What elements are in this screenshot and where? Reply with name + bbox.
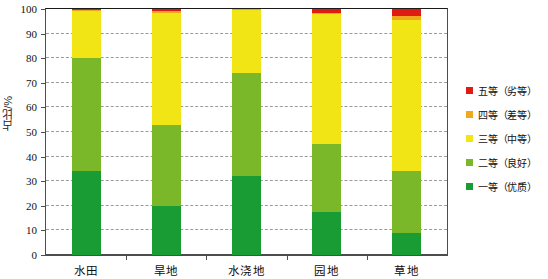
bar-segment[interactable] [392,20,421,171]
bar-stack[interactable] [312,9,341,255]
legend-label: 五等（劣等） [478,83,537,98]
bar-segment[interactable] [72,58,101,171]
bar-segment[interactable] [392,233,421,255]
bar-segment[interactable] [152,13,181,125]
legend-swatch-icon [466,87,473,94]
bar-segment[interactable] [392,9,421,16]
x-axis-label: 水浇地 [228,262,266,278]
legend-label: 四等（差等） [478,107,537,122]
legend-item[interactable]: 四等（差等） [466,102,548,126]
legend-label: 二等（良好） [478,155,537,170]
y-tick-label-60: 60 [26,101,37,113]
legend-item[interactable]: 五等（劣等） [466,78,548,102]
bar-segment[interactable] [72,11,101,58]
bar-segment[interactable] [72,171,101,255]
bar-segment[interactable] [312,144,341,212]
legend-swatch-icon [466,183,473,190]
x-axis-label: 园地 [314,262,339,278]
legend-swatch-icon [466,111,473,118]
plot-area: 0102030405060708090100 水田旱地水浇地园地草地 [45,8,448,256]
bar-segment[interactable] [152,206,181,255]
bar-group[interactable]: 园地 [312,9,341,255]
bar-group[interactable]: 草地 [392,9,421,255]
y-tick-label-50: 50 [26,126,37,138]
x-axis-label: 水田 [74,262,99,278]
bar-segment[interactable] [232,176,261,255]
bar-segment[interactable] [312,14,341,144]
bar-segment[interactable] [232,9,261,10]
bar-stack[interactable] [72,9,101,255]
stacked-bar-chart: 占比/% 0102030405060708090100 水田旱地水浇地园地草地 … [0,0,548,279]
y-tick-label-10: 10 [26,224,37,236]
y-tick-label-20: 20 [26,200,37,212]
x-tick [206,255,207,260]
legend-item[interactable]: 二等（良好） [466,150,548,174]
bar-stack[interactable] [152,9,181,255]
y-tick-label-70: 70 [26,77,37,89]
y-tick-label-0: 0 [32,249,38,261]
x-tick [126,255,127,260]
chart-legend: 五等（劣等）四等（差等）三等（中等）二等（良好）一等（优质） [466,78,548,198]
bars-layer: 水田旱地水浇地园地草地 [46,9,447,255]
y-tick-label-80: 80 [26,52,37,64]
bar-segment[interactable] [152,125,181,206]
bar-segment[interactable] [152,11,181,12]
bar-segment[interactable] [312,9,341,13]
y-tick-0: 0 [41,255,46,256]
bar-segment[interactable] [232,10,261,73]
legend-label: 三等（中等） [478,131,537,146]
y-tick-label-40: 40 [26,151,37,163]
legend-item[interactable]: 一等（优质） [466,174,548,198]
bar-segment[interactable] [392,16,421,20]
legend-swatch-icon [466,135,473,142]
y-axis-title: 占比/% [2,96,18,131]
bar-segment[interactable] [152,9,181,11]
bar-segment[interactable] [232,73,261,176]
bar-group[interactable]: 旱地 [152,9,181,255]
x-axis-label: 草地 [394,262,419,278]
y-tick-label-30: 30 [26,175,37,187]
bar-segment[interactable] [72,10,101,11]
bar-segment[interactable] [312,13,341,14]
bar-segment[interactable] [392,171,421,233]
legend-swatch-icon [466,159,473,166]
y-tick-label-100: 100 [21,3,38,15]
bar-stack[interactable] [232,9,261,255]
bar-group[interactable]: 水田 [72,9,101,255]
bar-group[interactable]: 水浇地 [232,9,261,255]
x-tick [287,255,288,260]
x-tick [367,255,368,260]
legend-label: 一等（优质） [478,179,537,194]
legend-item[interactable]: 三等（中等） [466,126,548,150]
x-axis-label: 旱地 [154,262,179,278]
bar-stack[interactable] [392,9,421,255]
bar-segment[interactable] [312,212,341,255]
y-tick-label-90: 90 [26,28,37,40]
